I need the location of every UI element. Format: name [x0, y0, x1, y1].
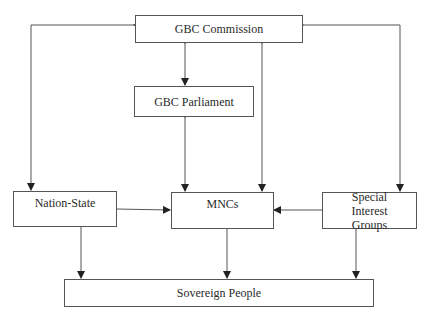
node-nation-state: Nation-State: [13, 191, 117, 227]
node-label: Sovereign People: [177, 286, 261, 300]
connector-lines: [0, 0, 438, 317]
edge-nation-state-mncs: [116, 209, 170, 210]
edge-commission-nation-state: [31, 25, 134, 190]
node-label: MNCs: [206, 197, 238, 211]
node-gbc-parliament: GBC Parliament: [134, 86, 254, 117]
node-gbc-commission: GBC Commission: [135, 15, 303, 43]
node-label: GBC Commission: [175, 22, 263, 36]
node-label: Nation-State: [35, 196, 96, 210]
node-special-interest-groups: Special Interest Groups: [322, 192, 417, 229]
node-label: Special Interest Groups: [333, 190, 406, 232]
node-sovereign-people: Sovereign People: [64, 279, 374, 307]
edge-commission-special-interest: [303, 25, 400, 191]
node-label: GBC Parliament: [154, 95, 234, 109]
node-mncs: MNCs: [171, 192, 274, 229]
